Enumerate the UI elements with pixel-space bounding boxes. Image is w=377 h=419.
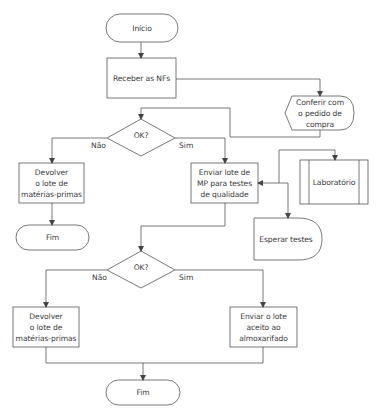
decision1-no-label: Não: [91, 141, 106, 150]
send-lot-tests-label: Enviar lote de MP para testes de qualida…: [189, 163, 260, 203]
check-order-label: Conferir com o pedido de compra: [288, 96, 352, 130]
wait-tests-label: Esperar testes: [254, 218, 318, 260]
decision1-yes-label: Sim: [179, 141, 193, 150]
flowchart: Início Receber as NFs Conferir com o ped…: [0, 0, 377, 419]
decision2-yes-label: Sim: [179, 273, 193, 282]
end2-label: Fim: [106, 380, 180, 405]
connector-receive-check: [176, 79, 320, 96]
connector-merge: [46, 347, 263, 363]
flowchart-canvas: [0, 0, 377, 419]
decision1-label: OK?: [121, 128, 161, 142]
decision2-label: OK?: [121, 260, 161, 274]
send-warehouse-label: Enviar o lote aceito ao almoxarifado: [230, 307, 297, 347]
end1-label: Fim: [16, 225, 89, 250]
start-label: Início: [106, 14, 178, 42]
connector-to-wait: [279, 183, 288, 218]
return-lot2-label: Devolver o lote de matérias-primas: [11, 307, 81, 347]
laboratory-label: Laboratório: [309, 160, 359, 204]
decision2-no-label: Não: [92, 273, 107, 282]
connector-send-decision2: [141, 203, 225, 251]
receive-invoices-label: Receber as NFs: [107, 58, 176, 98]
return-lot1-label: Devolver o lote de matérias-primas: [17, 163, 86, 203]
